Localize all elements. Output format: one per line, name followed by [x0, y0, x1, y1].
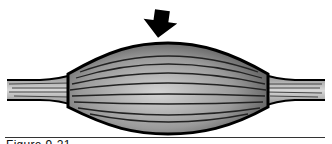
- arrow-down-icon: [141, 8, 179, 40]
- left-tendon: [7, 74, 75, 106]
- right-tendon: [262, 74, 325, 107]
- muscle-belly: [68, 43, 268, 134]
- figure-caption: Figure 9-21: [6, 138, 71, 144]
- muscle-illustration: [0, 0, 332, 144]
